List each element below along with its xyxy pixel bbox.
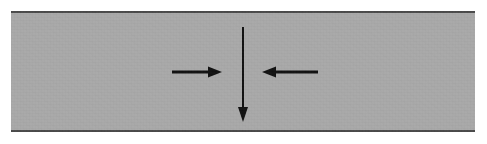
figure-container <box>0 0 487 144</box>
figure-diagram <box>0 0 487 144</box>
band-top-border <box>11 11 475 13</box>
band-bottom-border <box>11 130 475 132</box>
